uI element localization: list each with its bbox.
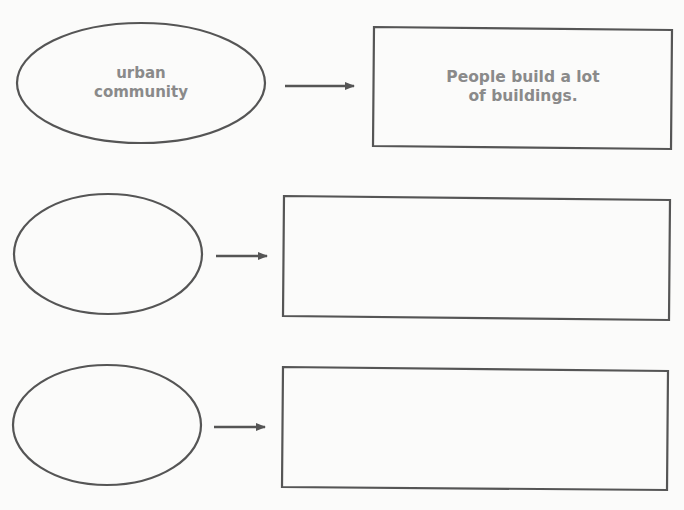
effect-line: People build a lot — [446, 68, 599, 87]
effect-text-1: People build a lot of buildings. — [380, 60, 666, 114]
cause-text-1: urban community — [40, 58, 242, 108]
cause-text-3 — [20, 400, 200, 450]
cause-line: urban — [94, 64, 188, 83]
effect-text-3 — [290, 400, 664, 454]
cause-text-2 — [20, 230, 200, 280]
effect-text-2 — [290, 230, 664, 284]
cause-line: community — [94, 83, 188, 102]
effect-line: of buildings. — [446, 87, 599, 106]
